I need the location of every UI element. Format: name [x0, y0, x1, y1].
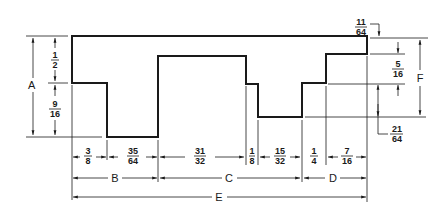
label-f: F	[417, 72, 424, 84]
svg-text:32: 32	[195, 156, 205, 166]
svg-text:1: 1	[249, 146, 254, 156]
svg-text:2: 2	[52, 60, 57, 70]
svg-text:1: 1	[311, 146, 316, 156]
segment-fractions: 3 8 35 64 31 32 1 8 15 32 1 4 7 16	[84, 146, 353, 166]
fraction-5-16: 5 16	[392, 59, 404, 79]
svg-text:35: 35	[128, 146, 138, 156]
svg-text:31: 31	[195, 146, 205, 156]
svg-text:9: 9	[52, 99, 57, 109]
svg-text:64: 64	[392, 134, 402, 144]
svg-text:3: 3	[85, 146, 90, 156]
svg-text:8: 8	[85, 156, 90, 166]
svg-text:16: 16	[393, 69, 403, 79]
part-outline	[72, 36, 367, 137]
svg-text:8: 8	[249, 156, 254, 166]
label-a: A	[28, 79, 36, 91]
svg-text:4: 4	[311, 156, 316, 166]
svg-text:1: 1	[52, 50, 57, 60]
fraction-9-16: 9 16	[49, 99, 61, 119]
dimension-21-64	[378, 85, 388, 134]
fraction-11-64-callout: 11 64	[355, 17, 379, 37]
svg-text:32: 32	[275, 156, 285, 166]
left-extension-lines	[26, 36, 102, 137]
label-c: C	[225, 172, 233, 184]
dimension-drawing: A 1 2 9 16 3	[0, 0, 448, 215]
svg-text:11: 11	[356, 17, 366, 27]
label-e: E	[215, 191, 222, 203]
svg-text:5: 5	[395, 59, 400, 69]
svg-text:7: 7	[344, 146, 349, 156]
fraction-1-2: 1 2	[51, 50, 59, 70]
svg-text:16: 16	[50, 109, 60, 119]
svg-text:21: 21	[392, 124, 402, 134]
label-d: D	[329, 172, 337, 184]
fraction-21-64-callout: 21 64	[390, 124, 403, 144]
svg-text:15: 15	[275, 146, 285, 156]
svg-text:16: 16	[342, 156, 352, 166]
svg-text:64: 64	[356, 27, 366, 37]
label-b: B	[111, 172, 118, 184]
svg-text:64: 64	[128, 156, 138, 166]
